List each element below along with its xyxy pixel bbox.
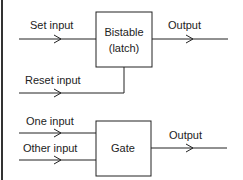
bistable-label: Bistable [104, 26, 143, 38]
gate-label: Gate [111, 142, 135, 154]
one-input-label: One input [26, 115, 74, 127]
logic-diagram: Bistable (latch) Set input Output Reset … [0, 0, 243, 180]
bistable-latch-block: Bistable (latch) Set input Output Reset … [19, 12, 228, 97]
gate-block: Gate One input Other input Output [19, 115, 227, 176]
bistable-box [96, 12, 152, 67]
set-input-label: Set input [30, 19, 73, 31]
gate-output-label: Output [169, 129, 202, 141]
latch-label: (latch) [109, 42, 140, 54]
bistable-output-label: Output [168, 19, 201, 31]
reset-input-label: Reset input [25, 74, 81, 86]
other-input-label: Other input [23, 142, 77, 154]
